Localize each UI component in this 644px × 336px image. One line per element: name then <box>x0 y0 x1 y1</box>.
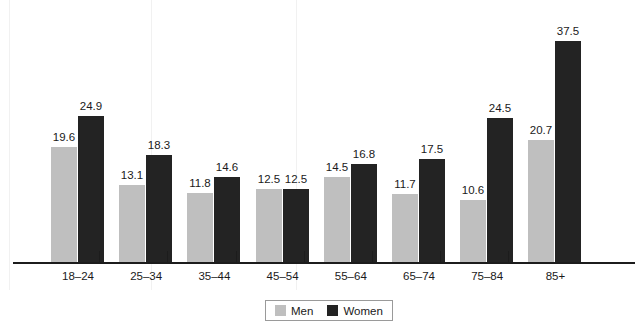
legend-label-women: Women <box>343 305 382 317</box>
legend-swatch-men-icon <box>275 305 286 316</box>
chart-legend: Men Women <box>265 300 393 321</box>
x-tick-label-18–24: 18–24 <box>43 270 113 282</box>
bar-men-85+ <box>528 140 554 263</box>
bar-value-label: 37.5 <box>547 25 589 37</box>
bar-value-label: 12.5 <box>275 173 317 185</box>
x-axis-tick <box>167 251 168 262</box>
x-axis-line <box>13 262 635 264</box>
x-axis-tick <box>440 251 441 262</box>
bar-value-label: 14.5 <box>316 161 358 173</box>
bar-men-45–54 <box>256 189 282 263</box>
bar-value-label: 13.1 <box>111 169 153 181</box>
bar-value-label: 24.9 <box>70 100 112 112</box>
bar-women-45–54 <box>283 189 309 263</box>
legend-item-men: Men <box>275 305 313 317</box>
bar-men-35–44 <box>187 193 213 263</box>
x-axis-tick <box>508 251 509 262</box>
x-axis-tick <box>236 251 237 262</box>
bar-men-55–64 <box>324 177 350 263</box>
x-axis-tick <box>99 251 100 262</box>
bar-value-label: 18.3 <box>138 139 180 151</box>
x-tick-label-65–74: 65–74 <box>384 270 454 282</box>
bar-value-label: 10.6 <box>452 184 494 196</box>
x-tick-label-25–34: 25–34 <box>111 270 181 282</box>
bar-women-55–64 <box>351 164 377 263</box>
legend-label-men: Men <box>291 305 313 317</box>
x-tick-label-85+: 85+ <box>520 270 590 282</box>
bar-men-75–84 <box>460 200 486 263</box>
x-tick-label-45–54: 45–54 <box>248 270 318 282</box>
x-tick-label-75–84: 75–84 <box>452 270 522 282</box>
bar-value-label: 17.5 <box>411 143 453 155</box>
x-axis-tick <box>304 251 305 262</box>
bar-chart: Men Women 19.624.918–2413.118.325–3411.8… <box>0 0 644 336</box>
bar-women-85+ <box>555 41 581 263</box>
bar-women-65–74 <box>419 159 445 263</box>
bar-men-25–34 <box>119 185 145 263</box>
bar-value-label: 16.8 <box>343 148 385 160</box>
x-axis-tick <box>372 251 373 262</box>
x-tick-label-55–64: 55–64 <box>316 270 386 282</box>
bar-value-label: 14.6 <box>206 161 248 173</box>
bar-men-18–24 <box>51 147 77 263</box>
bar-value-label: 11.7 <box>384 178 426 190</box>
bar-value-label: 19.6 <box>43 131 85 143</box>
x-tick-label-35–44: 35–44 <box>179 270 249 282</box>
bar-men-65–74 <box>392 194 418 263</box>
bar-value-label: 20.7 <box>520 124 562 136</box>
bar-value-label: 24.5 <box>479 102 521 114</box>
bar-value-label: 11.8 <box>179 177 221 189</box>
legend-swatch-women-icon <box>327 305 338 316</box>
legend-item-women: Women <box>327 305 382 317</box>
